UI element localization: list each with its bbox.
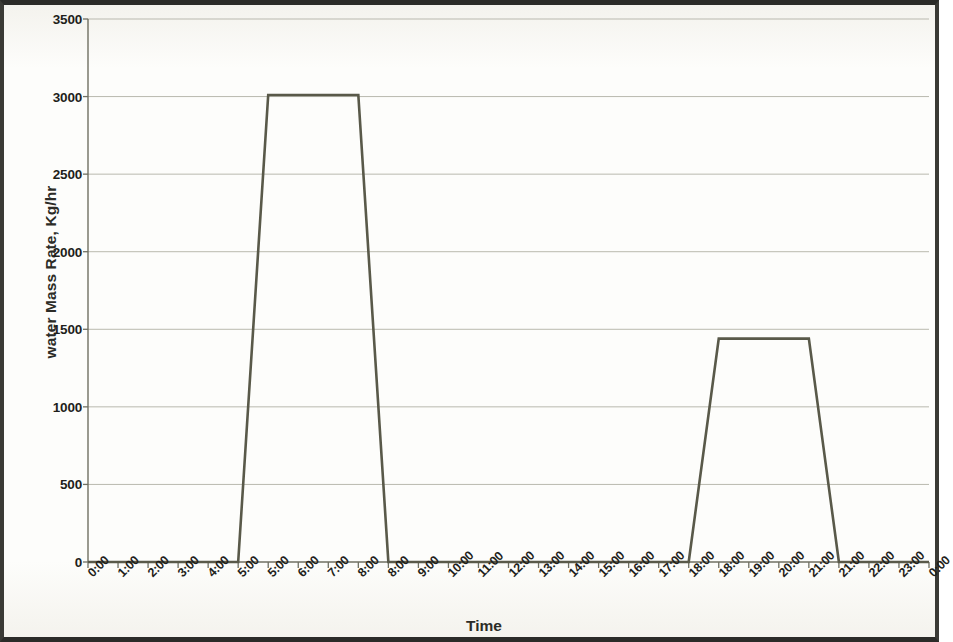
y-tick-label: 1000: [24, 399, 82, 414]
y-tick-label: 2000: [24, 244, 82, 259]
gridlines-group: [88, 19, 929, 562]
y-tick-label: 2500: [24, 167, 82, 182]
y-tick-label: 0: [24, 555, 82, 570]
data-series-line: [88, 95, 929, 562]
y-axis-tick-labels: 0500100015002000250030003500: [22, 5, 82, 637]
chart-svg: [4, 5, 935, 637]
y-tick-label: 3000: [24, 89, 82, 104]
y-tick-label: 1500: [24, 322, 82, 337]
y-tick-label: 3500: [24, 12, 82, 27]
tick-marks-group: [83, 19, 929, 568]
y-tick-label: 500: [24, 477, 82, 492]
chart-plot-container: water Mass Rate, Kg/hr Time 050010001500…: [4, 5, 935, 637]
x-axis-tick-labels: 0:001:002:003:004:005:005:006:007:008:00…: [4, 570, 935, 630]
